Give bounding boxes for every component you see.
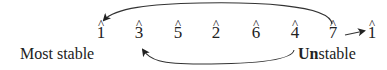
scale-degree-stability-diagram: ^1 ^3 ^5 ^2 ^6 ^4 ^7 ^1 Most stable Unst… <box>0 0 387 70</box>
label-unstable: Unstable <box>298 45 356 63</box>
degree-6: ^6 <box>252 23 261 43</box>
caret-icon: ^ <box>98 17 104 30</box>
caret-icon: ^ <box>175 17 181 30</box>
degree-3: ^3 <box>135 23 144 43</box>
caret-icon: ^ <box>213 17 219 30</box>
degree-7: ^7 <box>329 23 338 43</box>
degree-1: ^1 <box>97 23 106 43</box>
label-most-stable: Most stable <box>20 45 94 63</box>
degree-2: ^2 <box>212 23 221 43</box>
degree-1-upper: ^1 <box>368 23 377 43</box>
arrow-4-to-3 <box>143 50 294 64</box>
caret-icon: ^ <box>253 17 259 30</box>
caret-icon: ^ <box>369 17 375 30</box>
caret-icon: ^ <box>292 17 298 30</box>
arrow-7-to-upper-1 <box>345 31 364 35</box>
caret-icon: ^ <box>136 17 142 30</box>
degree-4: ^4 <box>291 23 300 43</box>
caret-icon: ^ <box>330 17 336 30</box>
degree-5: ^5 <box>174 23 183 43</box>
